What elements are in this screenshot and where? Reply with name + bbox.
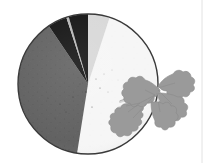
figure-root: Pie chart with herb garnish <box>0 0 212 163</box>
pie-chart-figure <box>0 0 212 163</box>
